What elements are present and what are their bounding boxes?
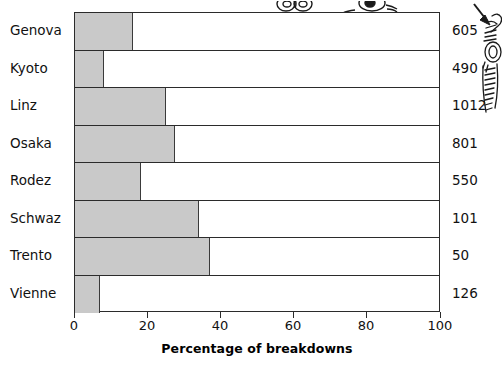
right-value-linz: 1012 [452, 87, 502, 125]
category-label-osaka: Osaka [0, 125, 66, 163]
bar-trento [75, 238, 210, 275]
bar-chart: Genova Kyoto Linz Osaka Rodez Schwaz Tre… [0, 0, 502, 371]
x-tick-label-60: 60 [271, 318, 315, 333]
bar-row-vienne [75, 276, 439, 314]
bar-row-kyoto [75, 51, 439, 89]
bar-row-genova [75, 13, 439, 51]
bar-genova [75, 13, 133, 50]
bar-kyoto [75, 51, 104, 88]
right-value-rodez: 550 [452, 162, 502, 200]
category-label-vienne: Vienne [0, 275, 66, 313]
bar-linz [75, 88, 166, 125]
x-tick-label-80: 80 [344, 318, 388, 333]
right-value-kyoto: 490 [452, 50, 502, 88]
category-label-genova: Genova [0, 12, 66, 50]
category-label-trento: Trento [0, 237, 66, 275]
x-tick-label-100: 100 [418, 318, 462, 333]
bar-row-schwaz [75, 201, 439, 239]
category-label-rodez: Rodez [0, 162, 66, 200]
bar-row-linz [75, 88, 439, 126]
bar-row-trento [75, 238, 439, 276]
bar-row-osaka [75, 126, 439, 164]
right-value-osaka: 801 [452, 125, 502, 163]
bar-schwaz [75, 201, 199, 238]
right-value-genova: 605 [452, 12, 502, 50]
category-label-kyoto: Kyoto [0, 50, 66, 88]
category-label-linz: Linz [0, 87, 66, 125]
bar-vienne [75, 276, 100, 314]
x-tick-label-0: 0 [52, 318, 96, 333]
x-axis-title: Percentage of breakdowns [74, 341, 440, 356]
bar-rodez [75, 163, 141, 200]
plot-area [74, 12, 440, 312]
category-label-schwaz: Schwaz [0, 200, 66, 238]
x-tick-label-20: 20 [125, 318, 169, 333]
right-value-vienne: 126 [452, 275, 502, 313]
right-value-trento: 50 [452, 237, 502, 275]
bar-row-rodez [75, 163, 439, 201]
right-value-schwaz: 101 [452, 200, 502, 238]
bar-osaka [75, 126, 175, 163]
x-tick-label-40: 40 [198, 318, 242, 333]
